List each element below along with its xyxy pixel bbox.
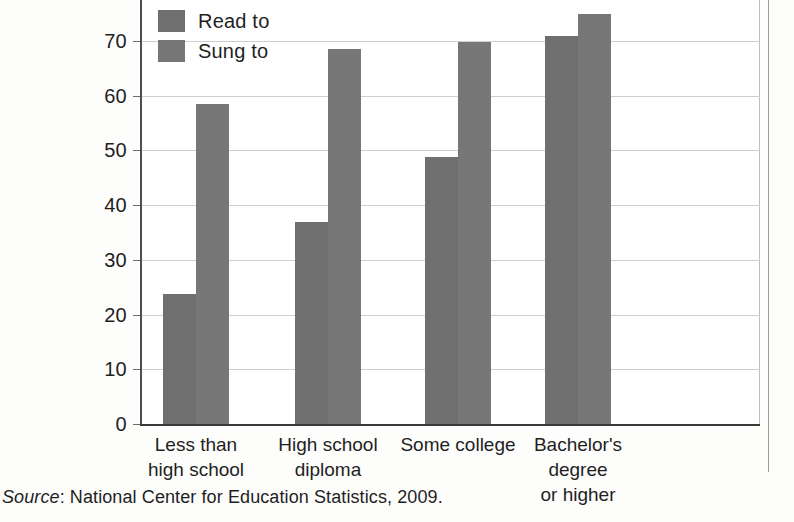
bar-read-to [545, 36, 578, 424]
plot-right-edge [759, 0, 760, 426]
bar-read-to [425, 157, 458, 424]
bar-sung-to [196, 104, 229, 424]
legend-swatch-icon [158, 40, 185, 62]
y-tick-10 [133, 369, 140, 370]
y-axis-tick-label: 10 [104, 358, 127, 381]
y-tick-70 [133, 41, 140, 42]
x-axis-line [140, 424, 760, 426]
y-axis-tick-label: 40 [104, 194, 127, 217]
y-tick-40 [133, 205, 140, 206]
figure-bar-chart: 010203040506070 Less than high schoolHig… [0, 0, 794, 478]
y-axis-line [140, 0, 142, 426]
x-axis-category-label: Less than high school [130, 432, 262, 482]
legend-item-label: Read to [198, 10, 269, 33]
y-axis-tick-label: 20 [104, 303, 127, 326]
figure-right-border [768, 0, 769, 472]
y-axis-tick-label: 70 [104, 30, 127, 53]
legend-swatch-icon [158, 10, 185, 32]
bar-read-to [163, 294, 196, 424]
gridline-50 [142, 150, 760, 151]
y-tick-60 [133, 96, 140, 97]
y-tick-50 [133, 150, 140, 151]
y-axis-tick-label: 0 [116, 413, 127, 436]
x-axis-category-label: Bachelor's degree or higher [512, 432, 644, 507]
bar-sung-to [328, 49, 361, 424]
source-caption: Source: National Center for Education St… [2, 487, 443, 508]
x-axis-category-label: High school diploma [262, 432, 394, 482]
y-tick-0 [133, 424, 140, 425]
y-axis-tick-label: 50 [104, 139, 127, 162]
legend-item-read-to: Read to [158, 6, 269, 36]
legend-item-sung-to: Sung to [158, 36, 269, 66]
bar-sung-to [578, 14, 611, 424]
x-axis-category-label: Some college [392, 432, 524, 457]
gridline-60 [142, 96, 760, 97]
y-tick-30 [133, 260, 140, 261]
bar-sung-to [458, 42, 491, 424]
y-tick-20 [133, 315, 140, 316]
legend-item-label: Sung to [198, 40, 268, 63]
bar-read-to [295, 222, 328, 424]
y-axis-tick-label: 30 [104, 248, 127, 271]
y-axis-tick-label: 60 [104, 84, 127, 107]
chart-legend: Read toSung to [158, 6, 269, 66]
source-text: : National Center for Education Statisti… [60, 487, 443, 507]
source-label: Source [2, 487, 60, 507]
